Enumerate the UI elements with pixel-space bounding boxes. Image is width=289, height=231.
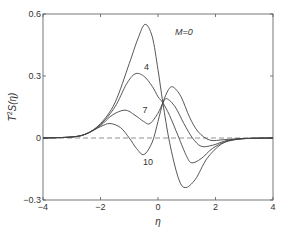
svg-text:T2S(η): T2S(η): [6, 93, 18, 122]
curve-label: 4: [144, 62, 149, 72]
y-axis-label-rest: S(η): [7, 93, 18, 112]
x-tick-label: 0: [155, 202, 160, 212]
y-axis-label: T2S(η): [6, 93, 18, 122]
curve-m-4: [43, 73, 273, 162]
chart-container: −4−2024−0.300.30.6 M=04710 η T2S(η): [0, 0, 289, 231]
chart-svg: −4−2024−0.300.30.6 M=04710 η T2S(η): [0, 0, 289, 231]
curve-m-0: [43, 24, 273, 187]
y-tick-label: 0.3: [28, 71, 41, 81]
curve-label: 7: [143, 105, 148, 115]
y-tick-label: −0.3: [23, 195, 41, 205]
x-tick-label: −2: [95, 202, 105, 212]
plot-axes: −4−2024−0.300.30.6: [23, 9, 275, 212]
curve-label: M=0: [175, 27, 193, 37]
x-tick-label: 4: [270, 202, 275, 212]
y-tick-label: 0: [36, 133, 41, 143]
x-tick-label: 2: [213, 202, 218, 212]
curve-label: 10: [143, 157, 153, 167]
x-axis-label: η: [155, 216, 161, 227]
data-curves: [43, 24, 273, 187]
y-tick-label: 0.6: [28, 9, 41, 19]
plot-frame: [43, 14, 273, 200]
